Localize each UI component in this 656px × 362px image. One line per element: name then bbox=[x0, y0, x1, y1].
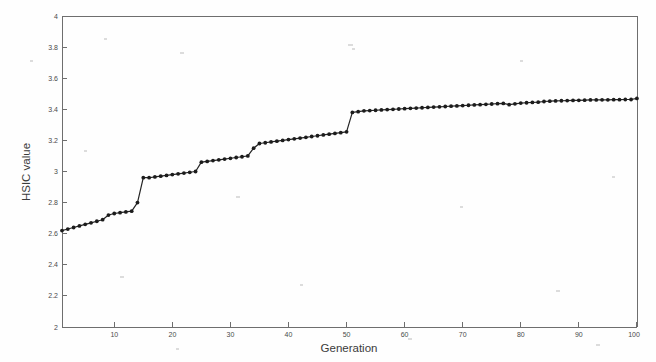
data-point bbox=[519, 101, 523, 105]
data-point bbox=[385, 108, 389, 112]
data-point bbox=[298, 136, 302, 140]
data-point bbox=[269, 140, 273, 144]
data-point bbox=[199, 160, 203, 164]
data-point bbox=[229, 156, 233, 160]
data-point bbox=[490, 102, 494, 106]
data-point bbox=[629, 98, 633, 102]
data-point bbox=[153, 175, 157, 179]
x-tick-label: 10 bbox=[110, 331, 118, 338]
x-tick-label: 50 bbox=[343, 331, 351, 338]
data-point bbox=[310, 135, 314, 139]
data-point bbox=[60, 229, 64, 233]
data-point bbox=[623, 98, 627, 102]
x-tick-40: 40 bbox=[285, 322, 293, 338]
data-point bbox=[455, 104, 459, 108]
data-point bbox=[66, 227, 70, 231]
y-tick-2-8: 2.8 bbox=[48, 199, 67, 206]
data-point bbox=[89, 221, 93, 225]
x-tick-80: 80 bbox=[517, 322, 525, 338]
data-point bbox=[112, 212, 116, 216]
y-tick-label: 4 bbox=[54, 13, 58, 20]
data-point bbox=[438, 105, 442, 109]
data-point bbox=[420, 106, 424, 110]
data-point bbox=[374, 108, 378, 112]
x-tick-30: 30 bbox=[227, 322, 235, 338]
data-point bbox=[379, 108, 383, 112]
y-axis-title: HSIC value bbox=[20, 143, 32, 201]
y-tick-2-4: 2.4 bbox=[48, 261, 67, 268]
data-point bbox=[548, 99, 552, 103]
y-tick-label: 2.8 bbox=[48, 199, 58, 206]
data-point bbox=[136, 201, 140, 205]
data-point bbox=[542, 100, 546, 104]
data-point bbox=[339, 131, 343, 135]
data-point bbox=[292, 137, 296, 141]
data-point bbox=[258, 142, 262, 146]
data-point bbox=[554, 99, 558, 103]
y-axis: 2 2.2 2.4 2.6 2.8 3 bbox=[48, 13, 67, 331]
data-point bbox=[101, 218, 105, 222]
data-point bbox=[594, 98, 598, 102]
series-group bbox=[60, 97, 639, 233]
data-point bbox=[501, 101, 505, 105]
scan-noise bbox=[30, 38, 615, 350]
y-tick-4: 4 bbox=[54, 13, 67, 20]
y-tick-label: 2 bbox=[54, 324, 58, 331]
data-point bbox=[78, 224, 82, 228]
data-point bbox=[589, 98, 593, 102]
data-point bbox=[275, 139, 279, 143]
y-tick-3: 3 bbox=[54, 168, 67, 175]
y-tick-label: 3.8 bbox=[48, 44, 58, 51]
data-point bbox=[107, 213, 111, 217]
data-point bbox=[356, 110, 360, 114]
data-point bbox=[211, 159, 215, 163]
data-point bbox=[130, 209, 134, 213]
data-point bbox=[240, 155, 244, 159]
data-point bbox=[350, 111, 354, 115]
y-tick-2-6: 2.6 bbox=[48, 230, 67, 237]
x-tick-20: 20 bbox=[169, 322, 177, 338]
data-point bbox=[304, 135, 308, 139]
data-point bbox=[147, 176, 151, 180]
data-point bbox=[223, 157, 227, 161]
x-tick-60: 60 bbox=[401, 322, 409, 338]
data-point bbox=[263, 141, 267, 145]
data-point bbox=[321, 133, 325, 137]
x-tick-70: 70 bbox=[459, 322, 467, 338]
data-point bbox=[449, 104, 453, 108]
data-point bbox=[234, 156, 238, 160]
data-point bbox=[246, 154, 250, 158]
data-point bbox=[606, 98, 610, 102]
data-point bbox=[345, 130, 349, 134]
hsic-value-markers bbox=[60, 97, 639, 233]
x-tick-label: 20 bbox=[169, 331, 177, 338]
data-point bbox=[252, 146, 256, 150]
data-point bbox=[176, 172, 180, 176]
x-tick-label: 60 bbox=[401, 331, 409, 338]
data-point bbox=[397, 107, 401, 111]
y-tick-2-2: 2.2 bbox=[48, 292, 67, 299]
x-tick-50: 50 bbox=[343, 322, 351, 338]
data-point bbox=[188, 170, 192, 174]
y-tick-label: 2.2 bbox=[48, 292, 58, 299]
data-point bbox=[414, 106, 418, 110]
data-point bbox=[409, 106, 413, 110]
y-tick-label: 2.6 bbox=[48, 230, 58, 237]
figure-canvas: 2 2.2 2.4 2.6 2.8 3 bbox=[0, 0, 656, 362]
y-tick-2: 2 bbox=[54, 324, 67, 331]
y-tick-label: 2.4 bbox=[48, 261, 58, 268]
y-tick-3-8: 3.8 bbox=[48, 44, 67, 51]
data-point bbox=[583, 98, 587, 102]
data-point bbox=[612, 98, 616, 102]
data-point bbox=[368, 109, 372, 113]
x-axis: 10 20 30 40 50 60 bbox=[110, 322, 640, 338]
plot-frame bbox=[62, 16, 637, 327]
x-tick-100: 100 bbox=[628, 322, 640, 338]
y-tick-3-4: 3.4 bbox=[48, 106, 67, 113]
data-point bbox=[165, 173, 169, 177]
y-tick-3-2: 3.2 bbox=[48, 137, 67, 144]
data-point bbox=[362, 109, 366, 113]
data-point bbox=[560, 99, 564, 103]
x-axis-title: Generation bbox=[321, 342, 378, 354]
data-point bbox=[571, 99, 575, 103]
